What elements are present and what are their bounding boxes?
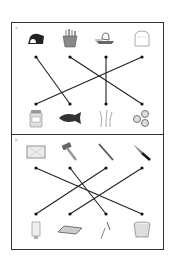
file-tool-icon <box>95 142 117 162</box>
bread-loaf-icon <box>25 29 47 49</box>
tube-icon <box>25 220 47 240</box>
section-b-label: b <box>15 137 18 142</box>
section-a-label: a <box>15 25 17 30</box>
wheat-icon <box>95 108 117 128</box>
butter-dish-icon <box>94 29 116 49</box>
jar-icon <box>25 108 47 128</box>
fries-icon <box>59 28 81 48</box>
fish-icon <box>57 108 85 128</box>
bread-slice-icon <box>131 28 153 48</box>
nails-icon <box>95 220 117 240</box>
board-icon <box>56 220 84 240</box>
cookies-icon <box>131 108 153 128</box>
hammer-icon <box>59 142 81 162</box>
baking-tray-icon <box>25 142 47 162</box>
knife-icon <box>131 142 153 162</box>
bucket-icon <box>131 219 153 239</box>
